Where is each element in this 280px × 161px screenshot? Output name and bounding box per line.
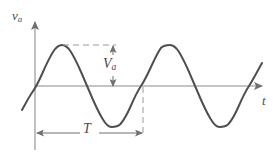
x-axis-label-text: t <box>262 93 266 108</box>
amplitude-label: Va <box>103 57 116 72</box>
period-label: T <box>83 122 91 136</box>
waveform-figure: va t Va T <box>0 0 280 161</box>
y-axis-label-subscript: a <box>18 14 22 24</box>
x-axis-label: t <box>262 94 266 107</box>
amplitude-label-subscript: a <box>112 62 117 72</box>
period-label-text: T <box>83 121 91 136</box>
amplitude-label-text: V <box>103 56 112 71</box>
waveform-canvas <box>0 0 280 161</box>
y-axis-label: va <box>12 9 22 23</box>
